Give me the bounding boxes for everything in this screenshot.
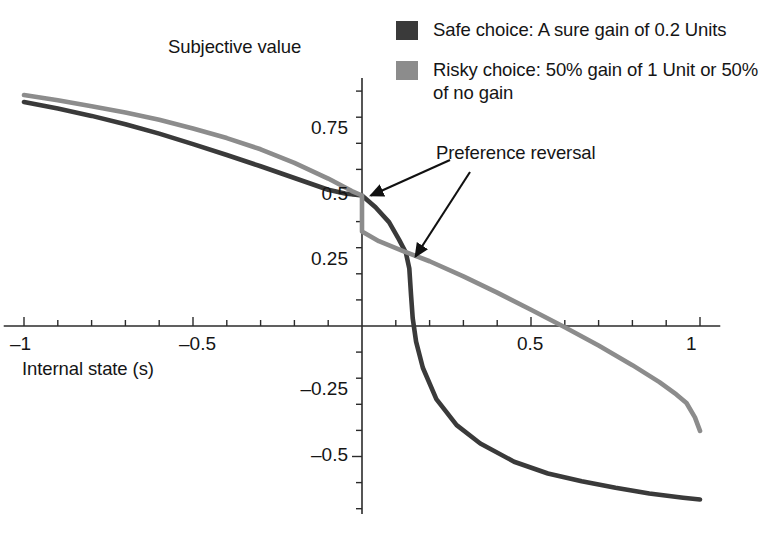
legend-item-risky-choice: Risky choice: 50% gain of 1 Unit or 50% … bbox=[396, 58, 767, 105]
chart-legend: Safe choice: A sure gain of 0.2 Units Ri… bbox=[396, 18, 767, 121]
chart-figure: –1–0.50.510.750.50.25–0.25–0.5 Subjectiv… bbox=[0, 0, 767, 534]
x-tick-label: –1 bbox=[10, 333, 31, 355]
preference-reversal-label: Preference reversal bbox=[436, 142, 596, 164]
y-tick-label: –0.5 bbox=[311, 444, 348, 466]
annotation-arrow bbox=[371, 160, 450, 196]
legend-swatch-icon-safe bbox=[396, 21, 418, 40]
y-tick-label: –0.25 bbox=[300, 378, 348, 400]
legend-item-safe-choice: Safe choice: A sure gain of 0.2 Units bbox=[396, 18, 767, 42]
y-tick-label: 0.5 bbox=[322, 183, 348, 205]
x-tick-label: 0.5 bbox=[517, 333, 543, 355]
legend-swatch-icon-risky bbox=[396, 61, 418, 80]
axes bbox=[4, 78, 721, 514]
annotation-arrow bbox=[416, 172, 470, 256]
legend-label-safe: Safe choice: A sure gain of 0.2 Units bbox=[433, 18, 727, 42]
y-tick-label: 0.25 bbox=[311, 248, 348, 270]
x-axis-title: Internal state (s) bbox=[22, 358, 154, 380]
y-axis-title: Subjective value bbox=[168, 36, 301, 58]
legend-label-risky: Risky choice: 50% gain of 1 Unit or 50% … bbox=[433, 58, 767, 105]
x-tick-label: –0.5 bbox=[179, 333, 216, 355]
x-tick-label: 1 bbox=[686, 333, 697, 355]
y-tick-label: 0.75 bbox=[311, 117, 348, 139]
